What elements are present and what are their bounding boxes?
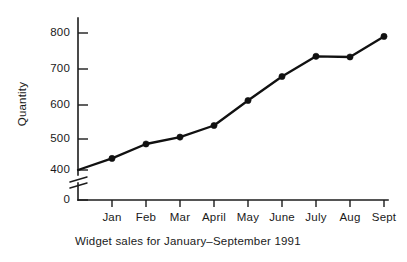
x-tick-label-mar: Mar (170, 211, 190, 223)
y-axis-title: Quantity (16, 82, 28, 126)
data-point-aug (347, 54, 353, 60)
x-tick-label-aug: Aug (339, 211, 360, 223)
axis-break-slash-upper (70, 177, 87, 182)
data-point-mar (177, 134, 183, 140)
y-tick-label-400: 400 (50, 163, 70, 175)
y-tick-label-700: 700 (50, 62, 70, 74)
y-tick-label-0: 0 (63, 193, 70, 205)
y-tick-label-500: 500 (50, 132, 70, 144)
data-point-april (211, 122, 217, 128)
y-tick-label-800: 800 (50, 26, 70, 38)
data-point-jan (109, 155, 115, 161)
data-point-july (313, 53, 319, 59)
x-tick-label-jan: Jan (102, 211, 121, 223)
data-point-feb (143, 141, 149, 147)
data-point-sept (381, 33, 387, 39)
x-tick-label-may: May (237, 211, 259, 223)
data-point-may (245, 97, 251, 103)
data-line-widget-sales (78, 36, 384, 170)
y-tick-label-600: 600 (50, 98, 70, 110)
x-tick-label-june: June (269, 211, 295, 223)
data-point-june (279, 73, 285, 79)
x-tick-label-sept: Sept (372, 211, 397, 223)
figure-caption: Widget sales for January–September 1991 (75, 235, 301, 247)
x-tick-label-feb: Feb (136, 211, 156, 223)
x-tick-label-july: July (305, 211, 326, 223)
x-tick-label-april: April (202, 211, 226, 223)
line-chart: 800 700 600 500 400 0 Jan Feb Mar April … (0, 0, 407, 262)
chart-figure: 800 700 600 500 400 0 Jan Feb Mar April … (0, 0, 407, 262)
